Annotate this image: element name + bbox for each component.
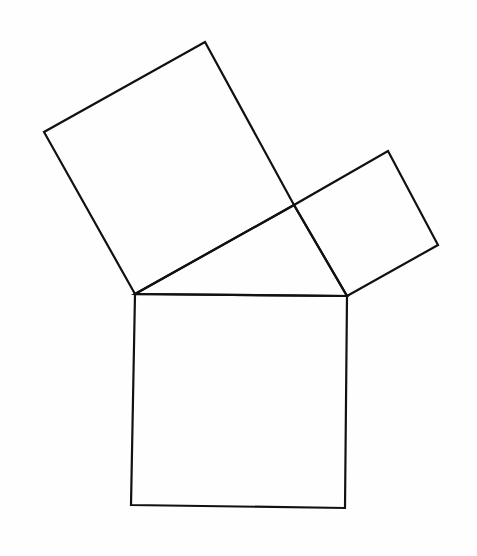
left-leg-square (44, 42, 294, 294)
hypotenuse-square (131, 294, 347, 508)
diagram-canvas (0, 0, 477, 556)
right-triangle (135, 205, 347, 296)
pythagorean-diagram (0, 0, 477, 556)
right-leg-square (294, 151, 438, 296)
